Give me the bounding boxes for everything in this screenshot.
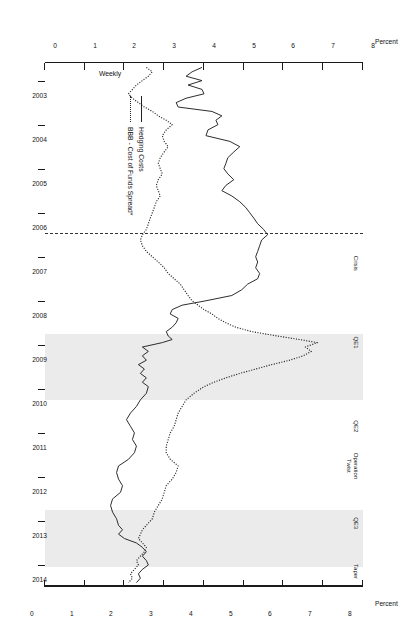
y-tick-label-r-4: 4 [189, 610, 219, 617]
y-tick-label-r-8: 8 [348, 610, 378, 617]
y-axis-left-label: Percent [375, 38, 398, 45]
x-tick-label-2005: 2005 [32, 179, 47, 186]
series-line-1 [128, 67, 317, 582]
legend: Hedging CostsBBB - Cost of Funds Spread* [125, 96, 147, 215]
y-tick-r-0 [44, 580, 45, 587]
y-tick-label-l-1: 1 [73, 42, 97, 49]
x-tick-label-2009: 2009 [32, 355, 47, 362]
y-tick-label-r-3: 3 [149, 610, 179, 617]
chart-canvas: CrisisQE1QE2Operation TwistQE3Taper 2003… [0, 0, 399, 624]
legend-item-0: Hedging Costs [136, 96, 147, 215]
y-tick-label-r-6: 6 [269, 610, 299, 617]
y-tick-label-l-2: 2 [113, 42, 137, 49]
x-tick-label-2008: 2008 [32, 311, 47, 318]
y-tick-r-3 [163, 580, 164, 587]
y-tick-l-8 [362, 63, 363, 70]
y-tick-l-4 [203, 63, 204, 70]
y-tick-label-l-0: 0 [33, 42, 57, 49]
legend-label-0: Hedging Costs [138, 127, 145, 172]
series-lines [45, 63, 363, 587]
y-tick-label-r-5: 5 [229, 610, 259, 617]
x-tick-label-2006: 2006 [32, 223, 47, 230]
y-axis-right-label: Percent [375, 600, 398, 607]
y-tick-r-4 [203, 580, 204, 587]
x-tick-2005 [38, 169, 45, 170]
y-tick-r-1 [84, 580, 85, 587]
y-tick-label-l-5: 5 [232, 42, 256, 49]
x-tick-label-2004: 2004 [32, 135, 47, 142]
plot-area: CrisisQE1QE2Operation TwistQE3Taper 2003… [45, 62, 363, 586]
y-tick-r-7 [322, 580, 323, 587]
y-axis-right: 012345678 [45, 586, 363, 587]
x-tick-2013 [38, 521, 45, 522]
y-tick-l-1 [84, 63, 85, 70]
y-tick-label-l-4: 4 [192, 42, 216, 49]
y-axis-left: 012345678 [45, 62, 363, 63]
frequency-label: Weekly [99, 70, 121, 77]
y-tick-label-r-2: 2 [110, 610, 140, 617]
x-tick-2008 [38, 301, 45, 302]
legend-label-1: BBB - Cost of Funds Spread* [127, 127, 134, 215]
x-tick-2014 [38, 565, 45, 566]
x-tick-2010 [38, 389, 45, 390]
y-tick-l-0 [44, 63, 45, 70]
x-tick-2006 [38, 213, 45, 214]
x-tick-label-2007: 2007 [32, 267, 47, 274]
x-tick-2007 [38, 257, 45, 258]
y-tick-l-6 [283, 63, 284, 70]
x-tick-2011 [38, 433, 45, 434]
y-tick-l-5 [243, 63, 244, 70]
x-tick-label-2013: 2013 [32, 531, 47, 538]
y-tick-label-l-6: 6 [272, 42, 296, 49]
y-tick-l-2 [124, 63, 125, 70]
y-tick-label-l-8: 8 [351, 42, 375, 49]
y-tick-r-2 [124, 580, 125, 587]
y-tick-label-l-7: 7 [311, 42, 335, 49]
x-tick-label-2003: 2003 [32, 91, 47, 98]
y-tick-l-7 [322, 63, 323, 70]
y-tick-label-r-1: 1 [70, 610, 100, 617]
x-tick-2009 [38, 345, 45, 346]
y-tick-r-8 [362, 580, 363, 587]
legend-swatch-solid [141, 96, 142, 122]
legend-swatch-dotted [130, 96, 131, 122]
x-tick-2004 [38, 125, 45, 126]
y-tick-l-3 [163, 63, 164, 70]
y-tick-label-l-3: 3 [152, 42, 176, 49]
y-tick-label-r-7: 7 [308, 610, 338, 617]
x-tick-2003 [38, 81, 45, 82]
y-tick-r-6 [283, 580, 284, 587]
x-tick-label-2011: 2011 [32, 443, 46, 450]
rotated-figure-wrapper: CrisisQE1QE2Operation TwistQE3Taper 2003… [0, 0, 399, 624]
legend-item-1: BBB - Cost of Funds Spread* [125, 96, 136, 215]
y-tick-r-5 [243, 580, 244, 587]
x-tick-2012 [38, 477, 45, 478]
y-tick-label-r-0: 0 [30, 610, 60, 617]
x-tick-label-2012: 2012 [32, 487, 47, 494]
x-tick-label-2010: 2010 [32, 399, 47, 406]
